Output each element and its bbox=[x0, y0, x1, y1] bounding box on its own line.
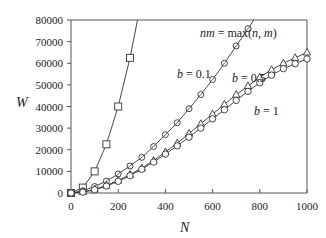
y-tick-label: 10000 bbox=[36, 165, 64, 177]
annotation-nm-max: nm = max(n, m) bbox=[200, 26, 277, 40]
circle-marker bbox=[221, 107, 227, 113]
circle-marker bbox=[150, 159, 156, 165]
annotation-b-0-1: b = 0.1 bbox=[177, 67, 211, 81]
circle-marker bbox=[139, 166, 145, 172]
circle-marker bbox=[103, 183, 109, 189]
square-marker bbox=[115, 103, 122, 110]
y-tick-label: 0 bbox=[58, 187, 64, 199]
circle-marker bbox=[198, 125, 204, 131]
x-tick-label: 0 bbox=[68, 200, 74, 212]
y-axis-title: W bbox=[16, 95, 29, 110]
circle-marker bbox=[174, 143, 180, 149]
triangle-marker bbox=[303, 48, 310, 55]
annotation-b-1: b = 1 bbox=[254, 104, 279, 118]
square-marker bbox=[127, 54, 134, 61]
x-tick-label: 1000 bbox=[296, 200, 319, 212]
circle-marker bbox=[127, 173, 133, 179]
x-tick-label: 400 bbox=[157, 200, 174, 212]
x-tick-label: 600 bbox=[204, 200, 221, 212]
circle-marker bbox=[268, 72, 274, 78]
triangle-marker bbox=[268, 66, 275, 73]
square-marker bbox=[103, 141, 110, 148]
circle-marker bbox=[304, 56, 310, 62]
y-tick-label: 80000 bbox=[36, 14, 64, 26]
circle-marker bbox=[162, 151, 168, 157]
circle-marker bbox=[292, 60, 298, 66]
line-chart: 0100002000030000400005000060000700008000… bbox=[0, 0, 326, 238]
circle-marker bbox=[91, 187, 97, 193]
circle-marker bbox=[209, 116, 215, 122]
circle-marker bbox=[68, 190, 74, 196]
y-tick-label: 50000 bbox=[36, 79, 64, 91]
y-tick-label: 20000 bbox=[36, 144, 64, 156]
y-tick-label: 30000 bbox=[36, 122, 64, 134]
y-tick-label: 40000 bbox=[36, 101, 64, 113]
circle-marker bbox=[280, 65, 286, 71]
circle-marker bbox=[233, 97, 239, 103]
y-tick-label: 70000 bbox=[36, 36, 64, 48]
x-tick-label: 200 bbox=[110, 200, 127, 212]
triangle-marker bbox=[292, 54, 299, 61]
triangle-marker bbox=[233, 91, 240, 98]
circle-marker bbox=[80, 189, 86, 195]
square-marker bbox=[91, 168, 98, 175]
annotation-b-0-5: b = 0.5 bbox=[232, 71, 266, 85]
chart-container: 0100002000030000400005000060000700008000… bbox=[0, 0, 326, 238]
y-tick-label: 60000 bbox=[36, 57, 64, 69]
circle-marker bbox=[115, 178, 121, 184]
circle-marker bbox=[186, 134, 192, 140]
circle-marker bbox=[245, 88, 251, 94]
triangle-marker bbox=[221, 100, 228, 107]
x-tick-label: 800 bbox=[252, 200, 269, 212]
x-axis-title: N bbox=[179, 220, 190, 235]
